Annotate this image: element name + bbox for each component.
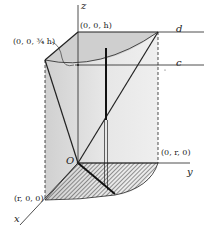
y-axis-label: y xyxy=(187,167,193,177)
point-label-mid-z: (0, 0, ¾ h) xyxy=(13,38,55,46)
z-axis-label: z xyxy=(81,1,86,11)
wedge-diagram xyxy=(0,0,204,239)
line-label-d: d xyxy=(176,24,182,34)
point-label-top-z: (0, 0, h) xyxy=(80,22,112,30)
line-label-c: c xyxy=(176,58,182,68)
point-label-y: (0, r, 0) xyxy=(161,149,191,157)
origin-label: O xyxy=(66,156,74,166)
point-label-x: (r, 0, 0) xyxy=(14,195,44,203)
x-axis-label: x xyxy=(14,214,20,224)
